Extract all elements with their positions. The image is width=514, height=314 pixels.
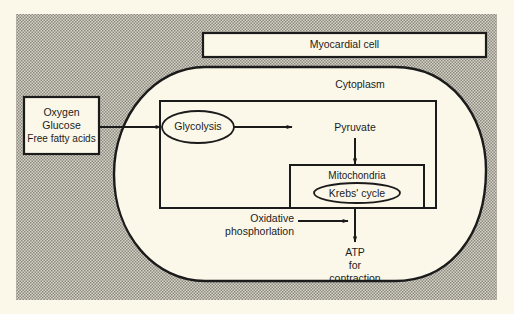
input-oxygen: Oxygen [24,106,99,119]
glycolysis-label: Glycolysis [162,120,234,133]
oxidative-labels: Oxidative phosphorlation [212,212,294,238]
title-label: Myocardial cell [203,38,486,51]
inputs-labels: Oxygen Glucose Free fatty acids [24,106,99,145]
input-fatty-acids: Free fatty acids [24,132,99,145]
myocardial-metabolism-diagram: Myocardial cell Cytoplasm Oxygen Glucose… [0,0,514,314]
krebs-label: Krebs' cycle [314,187,400,200]
cytoplasm-label: Cytoplasm [300,78,420,91]
atp-line-1: ATP [315,246,395,259]
atp-labels: ATP for contraction [315,246,395,285]
pyruvate-label: Pyruvate [315,121,395,134]
oxidative-line-1: Oxidative [212,212,294,225]
atp-line-2: for [315,259,395,272]
atp-line-3: contraction [315,272,395,285]
input-glucose: Glucose [24,119,99,132]
mitochondria-label: Mitochondria [300,169,414,182]
oxidative-line-2: phosphorlation [212,225,294,238]
